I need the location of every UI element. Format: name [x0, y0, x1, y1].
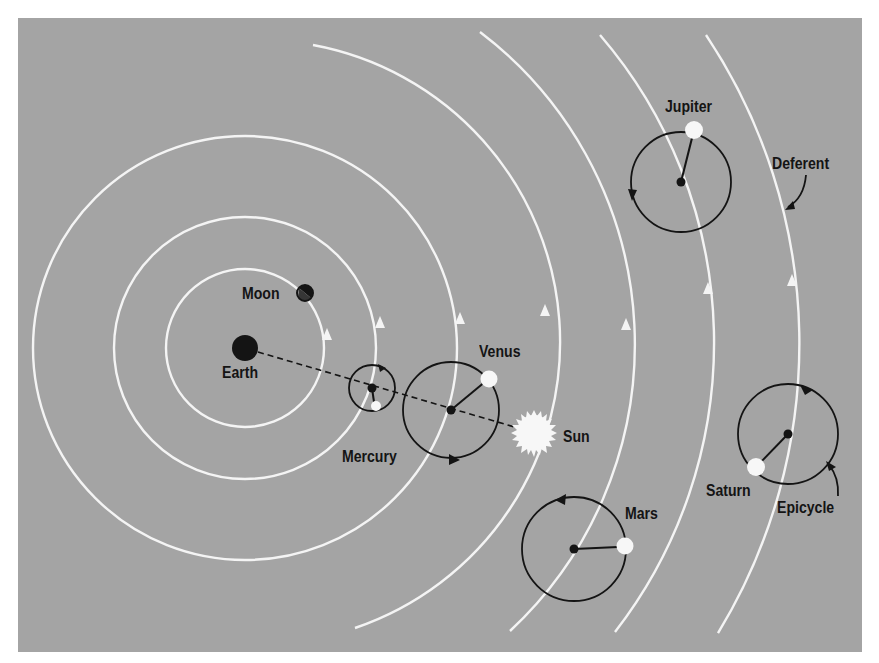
- label-jupiter: Jupiter: [665, 99, 712, 115]
- ptolemaic-system-diagram: [0, 0, 879, 663]
- label-mars: Mars: [625, 506, 658, 522]
- jupiter-icon: [685, 121, 703, 139]
- label-moon: Moon: [242, 286, 280, 302]
- mars-icon: [617, 538, 634, 555]
- earth-icon: [232, 335, 258, 361]
- label-epicycle: Epicycle: [777, 500, 834, 516]
- label-earth: Earth: [222, 365, 258, 381]
- background-panel: [18, 18, 862, 652]
- mercury-icon: [371, 401, 381, 411]
- label-deferent: Deferent: [772, 156, 829, 172]
- saturn-icon: [747, 458, 765, 476]
- label-sun: Sun: [563, 429, 590, 445]
- moon-icon: [297, 285, 313, 301]
- label-mercury: Mercury: [342, 449, 397, 465]
- label-saturn: Saturn: [706, 483, 751, 499]
- label-venus: Venus: [479, 344, 520, 360]
- venus-icon: [481, 371, 498, 388]
